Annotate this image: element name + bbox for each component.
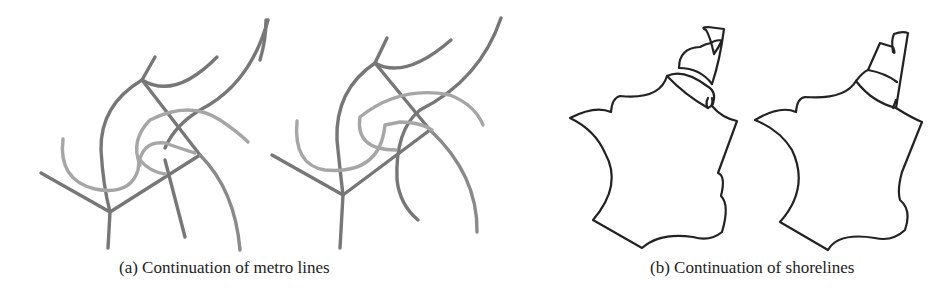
shoreline-input-panel: [570, 27, 737, 248]
metro-lines-completed-panel: [260, 18, 501, 248]
caption-metro-lines: (a) Continuation of metro lines: [119, 258, 330, 278]
caption-shorelines: (b) Continuation of shorelines: [650, 258, 854, 278]
metro-lines-input-panel: [41, 20, 268, 250]
shoreline-completed-panel: [755, 32, 922, 250]
figure-canvas: [0, 0, 948, 302]
